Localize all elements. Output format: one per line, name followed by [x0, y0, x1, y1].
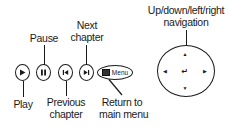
down-arrow-icon[interactable]: ▼: [183, 85, 188, 92]
previous-chapter-label-line1: Previous: [45, 96, 87, 108]
pause-button[interactable]: [36, 64, 51, 81]
navigation-label: Up/down/left/right navigation: [140, 4, 232, 28]
right-arrow-icon[interactable]: ▶: [203, 68, 207, 75]
navigation-pad[interactable]: ▲ ▼ ◀ ▶ ↵: [157, 45, 215, 97]
next-chapter-label-line1: Next: [69, 19, 105, 31]
enter-icon[interactable]: ↵: [182, 68, 189, 75]
navigation-label-line2: navigation: [140, 16, 232, 28]
play-button[interactable]: [15, 64, 30, 81]
previous-chapter-label: Previous chapter: [45, 96, 87, 120]
left-arrow-icon[interactable]: ◀: [163, 68, 167, 75]
menu-leader-line: [108, 79, 124, 97]
previous-chapter-button[interactable]: [58, 64, 73, 81]
up-arrow-icon[interactable]: ▲: [183, 51, 188, 58]
play-leader-line: [23, 81, 24, 97]
previous-chapter-label-line2: chapter: [45, 108, 87, 120]
pause-leader-line: [44, 45, 45, 65]
menu-icon: [102, 69, 110, 76]
previous-leader-line: [66, 81, 67, 96]
previous-chapter-icon: [62, 69, 69, 76]
next-leader-line: [86, 45, 87, 65]
pause-label: Pause: [28, 32, 60, 44]
return-label-line2: main menu: [99, 108, 145, 120]
navigation-label-line1: Up/down/left/right: [140, 4, 232, 16]
return-label-line1: Return to: [99, 96, 145, 108]
next-chapter-icon: [83, 69, 90, 76]
play-icon: [19, 69, 26, 76]
play-label: Play: [8, 98, 38, 110]
menu-label: Menu: [112, 69, 128, 76]
pause-icon: [40, 69, 47, 76]
next-chapter-label-line2: chapter: [69, 31, 105, 43]
next-chapter-label: Next chapter: [69, 19, 105, 43]
menu-button[interactable]: Menu: [97, 65, 133, 80]
return-to-main-menu-label: Return to main menu: [99, 96, 145, 120]
navigation-leader-line: [186, 30, 187, 45]
next-chapter-button[interactable]: [79, 64, 94, 81]
